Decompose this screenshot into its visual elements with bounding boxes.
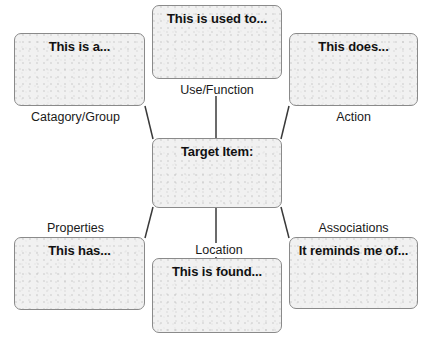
node-properties[interactable]: This has... <box>14 237 145 310</box>
node-associations-text: It reminds me of... <box>290 238 417 258</box>
caption-action: Action <box>289 110 418 124</box>
node-target-item-text: Target Item: <box>153 139 281 159</box>
connector-action-to-target <box>281 106 289 139</box>
node-target-item[interactable]: Target Item: <box>152 138 282 208</box>
connector-target-to-properties <box>145 207 153 238</box>
node-category-group[interactable]: This is a... <box>14 33 145 106</box>
node-properties-text: This has... <box>15 238 144 258</box>
node-associations[interactable]: It reminds me of... <box>289 237 418 309</box>
node-location-text: This is found... <box>153 259 281 279</box>
node-action[interactable]: This does... <box>289 33 418 106</box>
node-use-function-text: This is used to... <box>153 6 281 26</box>
connector-category-to-target <box>145 106 153 139</box>
node-location[interactable]: This is found... <box>152 258 282 333</box>
caption-properties: Properties <box>10 221 141 235</box>
connector-target-to-associations <box>281 207 289 238</box>
caption-location: Location <box>152 243 286 257</box>
caption-use-function: Use/Function <box>152 83 282 97</box>
node-category-group-text: This is a... <box>15 34 144 54</box>
node-action-text: This does... <box>290 34 417 54</box>
caption-associations: Associations <box>289 221 418 235</box>
node-use-function[interactable]: This is used to... <box>152 5 282 79</box>
concept-map-canvas: This is used to... Use/Function This is … <box>0 0 427 346</box>
caption-category-group: Catagory/Group <box>10 110 141 124</box>
